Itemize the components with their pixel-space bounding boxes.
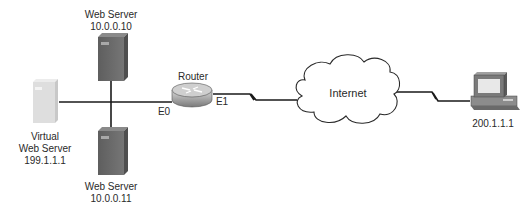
virtual-server-ip: 199.1.1.1 (16, 155, 74, 167)
web-server-2-name: Web Server (84, 181, 138, 193)
web-server-1-ip: 10.0.0.10 (84, 21, 138, 33)
network-diagram (0, 0, 528, 206)
router-label: Router (178, 71, 206, 83)
client-pc-icon[interactable] (471, 72, 520, 110)
web-server-2-icon[interactable] (98, 127, 128, 175)
router-e1-label: E1 (215, 96, 229, 108)
web-server-2-label: Web Server 10.0.0.11 (84, 181, 138, 205)
virtual-server-icon[interactable] (33, 79, 58, 123)
wan-link-internet-pc (395, 92, 470, 101)
client-pc-ip: 200.1.1.1 (466, 118, 520, 130)
web-server-2-ip: 10.0.0.11 (84, 193, 138, 205)
lan-links (59, 80, 172, 128)
virtual-server-label: Virtual Web Server 199.1.1.1 (16, 131, 74, 167)
router-icon[interactable] (172, 83, 212, 107)
virtual-server-line2: Web Server (16, 143, 74, 155)
virtual-server-line1: Virtual (16, 131, 74, 143)
web-server-1-label: Web Server 10.0.0.10 (84, 9, 138, 33)
internet-label: Internet (323, 87, 373, 99)
web-server-1-icon[interactable] (98, 33, 128, 81)
router-e0-label: E0 (157, 106, 171, 118)
web-server-1-name: Web Server (84, 9, 138, 21)
